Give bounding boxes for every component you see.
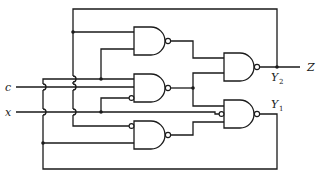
wire-g2-to-g4 bbox=[193, 73, 224, 88]
junction-dot bbox=[71, 30, 75, 34]
state-subscript-y2: 2 bbox=[279, 78, 283, 86]
nand-gate-3 bbox=[134, 121, 165, 149]
output-label-z: Z bbox=[306, 61, 315, 74]
junction-dot bbox=[99, 110, 103, 114]
junction-dot bbox=[275, 65, 279, 69]
nand-gate-5 bbox=[224, 100, 254, 128]
logic-circuit-diagram: c x Y 2 Z Y 1 bbox=[0, 0, 322, 178]
wire-x-to-g2 bbox=[101, 98, 131, 112]
inversion-bubble bbox=[254, 64, 259, 69]
wire-g1-to-g4 bbox=[171, 41, 224, 58]
nand-gate-1 bbox=[134, 27, 165, 55]
input-wire-x bbox=[16, 112, 220, 114]
wire-g3-to-g5 bbox=[171, 122, 224, 135]
inversion-bubble bbox=[165, 132, 170, 137]
inversion-bubble bbox=[254, 111, 259, 116]
wire-g2-to-g5 bbox=[193, 88, 224, 106]
input-label-c: c bbox=[5, 81, 11, 94]
inversion-bubble bbox=[165, 85, 170, 90]
junction-dot bbox=[99, 77, 103, 81]
nand-gate-2 bbox=[134, 74, 165, 102]
inversion-bubble bbox=[165, 38, 170, 43]
nand-gate-4 bbox=[224, 53, 254, 81]
junction-dot bbox=[41, 141, 45, 145]
input-inversion-bubble bbox=[219, 112, 224, 117]
state-subscript-y1: 1 bbox=[279, 105, 283, 113]
y1-vertical-upper bbox=[43, 79, 134, 109]
input-inversion-bubble bbox=[129, 96, 134, 101]
input-label-x: x bbox=[5, 106, 12, 119]
y2-vertical-lower bbox=[73, 82, 131, 126]
junction-dot bbox=[191, 86, 195, 90]
wire-y1-to-g1 bbox=[101, 49, 134, 79]
input-inversion-bubble bbox=[129, 124, 134, 129]
